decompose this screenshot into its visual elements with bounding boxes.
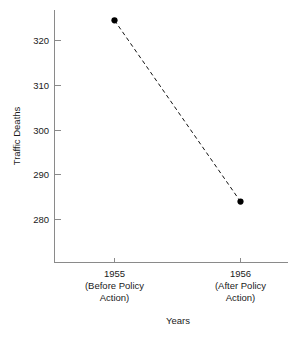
y-tick-label-280: 280 [33, 214, 49, 225]
x-category-label-1956-line2: (After Policy [215, 280, 266, 291]
line-chart: 320 310 300 290 280 1955 (Before Policy … [0, 0, 305, 340]
x-category-label-1955-line3: Action) [100, 292, 130, 303]
data-point-1955 [111, 17, 117, 23]
y-tick-label-290: 290 [33, 169, 49, 180]
y-tick-label-300: 300 [33, 125, 49, 136]
y-axis-title: Traffic Deaths [11, 106, 22, 165]
x-category-label-1956-year: 1956 [230, 268, 251, 279]
y-tick-label-310: 310 [33, 80, 49, 91]
x-axis-title: Years [166, 315, 190, 326]
x-category-label-1955-line2: (Before Policy [85, 280, 144, 291]
y-tick-label-320: 320 [33, 35, 49, 46]
x-category-label-1956-line3: Action) [226, 292, 256, 303]
series-line-traffic-deaths [115, 20, 241, 201]
chart-container: 320 310 300 290 280 1955 (Before Policy … [0, 0, 305, 340]
data-point-1956 [237, 199, 243, 205]
x-category-label-1955-year: 1955 [104, 268, 125, 279]
